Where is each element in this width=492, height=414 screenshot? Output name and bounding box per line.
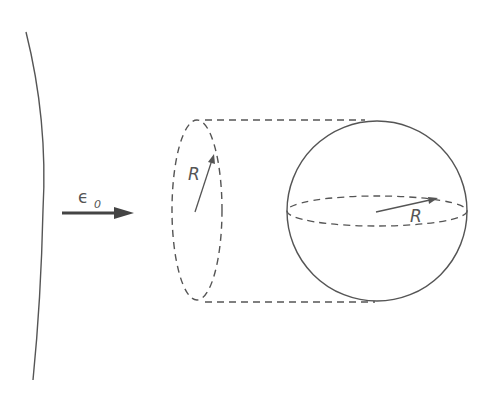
- sphere-radius-arrow: [376, 197, 438, 212]
- field-label: ϵ: [78, 187, 88, 207]
- sphere: [287, 121, 467, 301]
- field-subscript: 0: [94, 198, 101, 211]
- boundary-curve: [26, 32, 44, 380]
- cylinder-radius-label: R: [188, 164, 200, 184]
- sphere-radius-label: R: [410, 206, 422, 226]
- cylinder-cross-section: [172, 120, 222, 300]
- diagram-canvas: ϵ 0 R R: [0, 0, 492, 414]
- sphere-equator: [287, 196, 467, 226]
